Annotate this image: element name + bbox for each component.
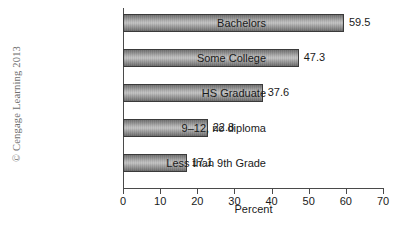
bar-value-label: 47.3 xyxy=(304,51,325,63)
x-axis-title: Percent xyxy=(123,203,384,215)
bar-value-label: 37.6 xyxy=(268,86,289,98)
x-tick-mark xyxy=(346,189,347,194)
category-label: Some College xyxy=(197,49,266,67)
x-tick-mark xyxy=(160,189,161,194)
category-label: Less than 9th Grade xyxy=(166,154,266,172)
x-tick-mark xyxy=(123,189,124,194)
figure-container: © Cengage Learning 2013 010203040506070 … xyxy=(0,0,395,229)
category-label: HS Graduate xyxy=(202,84,266,102)
bar-value-label: 59.5 xyxy=(349,16,370,28)
x-axis-line xyxy=(123,188,384,189)
category-label: 9–12, no diploma xyxy=(182,119,266,137)
x-tick-mark xyxy=(309,189,310,194)
x-tick-mark xyxy=(234,189,235,194)
copyright-notice: © Cengage Learning 2013 xyxy=(9,39,25,169)
x-tick-mark xyxy=(197,189,198,194)
x-tick-mark xyxy=(383,189,384,194)
category-label: Bachelors xyxy=(217,14,266,32)
x-tick-mark xyxy=(272,189,273,194)
